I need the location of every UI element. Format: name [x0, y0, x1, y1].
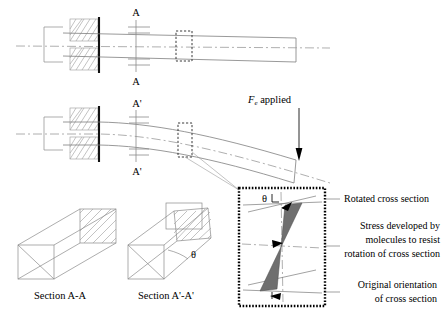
top-support-hatch — [70, 19, 98, 70]
deflected-beam-right-end — [294, 160, 296, 183]
section-aprime-label: Section A'-A' — [138, 290, 194, 301]
annotation-original-line-1: of cross section — [375, 293, 437, 304]
section-aa-label: Section A-A — [34, 290, 87, 301]
annotation-rotated: Rotated cross section — [325, 193, 429, 204]
deflected-support-hatch — [70, 108, 98, 159]
annotation-original-line-0: Original orientation — [358, 279, 437, 290]
deflected-beam-centerline — [16, 134, 330, 183]
section-aprime-hatch — [174, 209, 211, 241]
stress-triangle-upper — [281, 203, 302, 247]
detail-leader-lines — [185, 152, 239, 190]
section-cut-label-aprime-top: A' — [132, 98, 142, 109]
detail-theta-tick — [272, 194, 279, 202]
annotation-original: Original orientation of cross section — [325, 279, 437, 304]
detail-rotated-section-line-lower — [248, 270, 316, 285]
annotation-stress-line-2: rotation of cross section — [344, 248, 440, 259]
top-beam-group: A A — [16, 7, 330, 87]
top-beam-left-bracket — [44, 27, 63, 62]
annotation-rotated-line-0: Rotated cross section — [344, 193, 429, 204]
stress-triangle-lower — [260, 247, 281, 291]
detail-theta-label: θ — [262, 193, 267, 204]
deflected-beam-left-bracket — [44, 117, 63, 150]
beam-diagram: A A — [0, 0, 443, 314]
force-applied-word: applied — [258, 94, 292, 105]
section-cut-label-aprime-bottom: A' — [132, 166, 142, 177]
section-aprime-theta-label: θ — [191, 249, 196, 260]
section-cut-aprime — [129, 110, 149, 162]
applied-force-label: Fe applied — [247, 94, 292, 107]
annotation-stress: Stress developed by molecules to resist … — [325, 220, 440, 259]
top-beam-centerline — [16, 46, 330, 48]
detail-box-group: θ — [239, 188, 325, 306]
detail-rotated-section-line — [248, 196, 316, 212]
section-aprime-theta-arc — [168, 250, 188, 259]
applied-force-arrow — [296, 108, 303, 161]
annotation-stress-line-0: Stress developed by — [360, 220, 440, 231]
deflected-beam-group: A' A' Fe applied — [16, 94, 330, 183]
deflected-beam-inspection-box — [178, 123, 192, 157]
section-aa-hatch — [80, 209, 116, 243]
detail-ref-line-top — [243, 202, 322, 205]
section-cut-label-a-bottom: A — [132, 76, 140, 87]
section-cut-label-a-top: A — [132, 7, 140, 18]
section-aprime-isometric: θ Section A'-A' — [128, 203, 211, 301]
section-aa-isometric: Section A-A — [18, 209, 116, 301]
section-cut-aa — [128, 20, 150, 72]
annotation-stress-line-1: molecules to resist — [366, 234, 441, 245]
figure-root: A A — [0, 0, 443, 314]
